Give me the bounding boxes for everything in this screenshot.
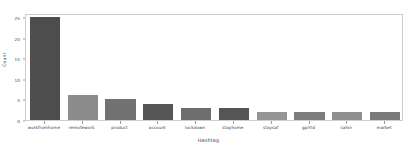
bar xyxy=(257,112,287,120)
x-axis-label: Hashtag xyxy=(0,138,417,143)
x-tick-label: stayhome xyxy=(222,125,243,130)
x-tick-mark xyxy=(346,121,347,124)
y-tick-label: 5 xyxy=(0,98,20,103)
bar xyxy=(105,99,135,120)
y-tick-label: 15 xyxy=(0,57,20,62)
x-tick-mark xyxy=(44,121,45,124)
x-tick-label: staysaf xyxy=(263,125,278,130)
x-tick-mark xyxy=(233,121,234,124)
bar xyxy=(181,108,211,120)
x-tick-label: product xyxy=(111,125,127,130)
bar xyxy=(332,112,362,120)
bar xyxy=(219,108,249,120)
x-tick-label: workfromhome xyxy=(28,125,60,130)
x-tick-mark xyxy=(157,121,158,124)
bar xyxy=(68,95,98,120)
x-tick-mark xyxy=(309,121,310,124)
x-tick-mark xyxy=(271,121,272,124)
y-tick-label: 10 xyxy=(0,77,20,82)
x-tick-mark xyxy=(384,121,385,124)
x-tick-mark xyxy=(195,121,196,124)
y-tick-label: 25 xyxy=(0,16,20,21)
bar-chart-figure: Count 0510152025 workfromhomeremoteworkp… xyxy=(0,0,417,151)
bar xyxy=(294,112,324,120)
bar xyxy=(143,104,173,120)
x-tick-label: lockdown xyxy=(185,125,205,130)
bar-series xyxy=(26,15,402,120)
bar xyxy=(370,112,400,120)
x-tick-label: remotework xyxy=(69,125,95,130)
y-tick-label: 0 xyxy=(0,119,20,124)
x-tick-label: account xyxy=(149,125,166,130)
x-tick-mark xyxy=(120,121,121,124)
y-tick-label: 20 xyxy=(0,36,20,41)
x-tick-label: gprltd xyxy=(302,125,315,130)
plot-area xyxy=(25,14,403,121)
x-tick-label: market xyxy=(377,125,392,130)
x-tick-label: sahin xyxy=(341,125,352,130)
bar xyxy=(30,17,60,120)
x-tick-mark xyxy=(82,121,83,124)
